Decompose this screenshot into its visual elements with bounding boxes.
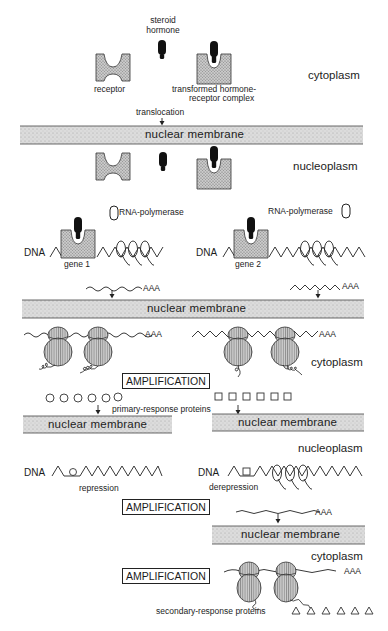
hormone-receptor-complex [197,41,231,84]
cytoplasm-label-top: cytoplasm [308,70,360,82]
steroid-hormone-diagram: steroid hormone receptor transformed hor… [0,0,388,631]
steroid-hormone-label: steroid hormone [146,16,180,34]
polya-label-3: AAA [145,330,162,339]
cytoplasm-label-bottom: cytoplasm [311,551,363,563]
secondary-response-triangles [292,607,373,614]
translocation-label: translocation [136,108,184,117]
secondary-response-label: secondary-response proteins [156,607,266,616]
nuclear-membrane-2-label: nuclear membrane [147,303,246,315]
derepression-label: derepression [209,483,258,492]
repression-label: repression [79,484,119,493]
dna-gene1-label: DNA [24,248,45,258]
primary-response-circles [46,393,122,402]
polya-label-2: AAA [342,282,359,291]
polya-label-6: AAA [344,567,361,576]
primary-response-label: primary-response proteins [112,405,211,414]
primary-response-squares [215,393,291,400]
receptor-free [96,54,130,81]
nuclear-membrane-4-label: nuclear membrane [241,529,340,541]
amplification-box-2: AMPLIFICATION [122,499,210,515]
cytoplasm-label-mid: cytoplasm [311,357,363,369]
dna-derepression-label: DNA [198,468,219,478]
nuclear-membrane-1-label: nuclear membrane [145,129,244,141]
complex-label-line2: receptor complex [189,94,254,103]
nucleoplasm-label-1: nucleoplasm [293,161,358,173]
steroid-label-line1: steroid [146,16,180,25]
nucleoplasm-label-2: nucleoplasm [298,443,363,455]
receptor-label: receptor [94,85,125,94]
amplification-box-3: AMPLIFICATION [122,568,210,584]
rna-polymerase-left-label: RNA-polymerase [119,208,184,217]
steroid-hormone [158,40,166,59]
nuclear-membrane-3-left-label: nuclear membrane [48,419,147,431]
polya-label-1: AAA [143,284,160,293]
nuclear-membrane-3-right-label: nuclear membrane [238,417,337,429]
polya-label-4: AAA [319,330,336,339]
steroid-label-line2: hormone [146,26,180,35]
rna-polymerase-right-label: RNA-polymerase [268,207,333,216]
amplification-box-1: AMPLIFICATION [122,373,210,389]
gene1-label: gene 1 [64,260,90,269]
polya-label-5: AAA [315,508,332,517]
gene2-label: gene 2 [235,260,261,269]
dna-repression-label: DNA [24,468,45,478]
dna-gene2-label: DNA [196,248,217,258]
